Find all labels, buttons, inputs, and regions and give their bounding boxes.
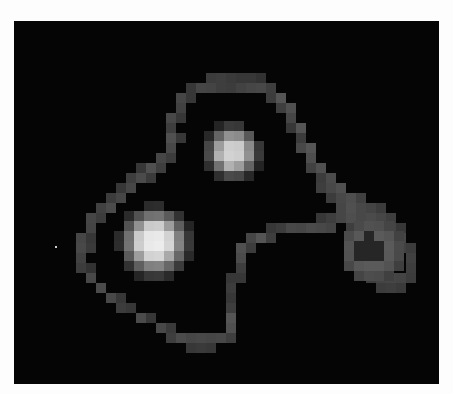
right-ring-lobe-pixel [364,241,374,251]
track-pixel [306,143,316,153]
track-pixel [176,113,186,123]
track-pixel [266,93,276,103]
track-pixel [216,83,226,93]
right-ring-lobe-pixel [354,251,364,261]
lower-left-blob-pixel [154,261,164,271]
track-pixel [226,273,236,283]
upper-blob-pixel [214,151,224,161]
track-pixel [336,193,346,203]
track-pixel [326,173,336,183]
track-pixel [256,83,266,93]
upper-blob-pixel [214,171,224,181]
track-pixel [226,293,236,303]
lower-left-blob-pixel [184,251,194,261]
upper-blob-pixel [234,141,244,151]
track-pixel [76,263,86,273]
lower-left-blob-pixel [154,211,164,221]
track-pixel [266,233,276,243]
right-ring-lobe-pixel [354,231,364,241]
lower-left-blob-pixel [134,221,144,231]
upper-blob-pixel [214,131,224,141]
track-pixel [76,253,86,263]
track-pixel [166,133,176,143]
lower-left-blob-pixel [144,271,154,281]
right-ring-lobe-pixel [364,231,374,241]
lower-left-blob-pixel [184,231,194,241]
lower-left-blob-pixel [124,231,134,241]
track-pixel [276,93,286,103]
track-pixel [246,233,256,243]
track-pixel [326,193,336,203]
track-pixel [226,73,236,83]
upper-blob-pixel [224,131,234,141]
track-pixel [336,213,346,223]
lower-left-blob-pixel [144,241,154,251]
lower-left-blob-pixel [144,261,154,271]
track-pixel [166,323,176,333]
lower-left-blob-pixel [164,271,174,281]
track-pixel [176,103,186,113]
lower-left-blob-pixel [114,231,124,241]
track-pixel [236,273,246,283]
track-pixel [246,83,256,93]
lower-left-blob-pixel [154,231,164,241]
lower-left-blob-pixel [134,251,144,261]
upper-blob-pixel [244,151,254,161]
lower-left-blob-pixel [134,231,144,241]
right-ring-lobe-pixel [394,251,404,261]
lower-left-blob-pixel [124,241,134,251]
track-pixel [146,163,156,173]
track-pixel [356,193,366,203]
track-pixel [406,263,416,273]
lower-left-blob-pixel [164,221,174,231]
upper-blob-pixel [254,141,264,151]
upper-blob-pixel [224,151,234,161]
track-pixel [376,283,386,293]
track-pixel [236,243,246,253]
track-pixel [96,213,106,223]
track-pixel [396,273,406,283]
track-pixel [406,253,416,263]
track-pixel [246,243,256,253]
track-pixel [226,323,236,333]
right-ring-lobe-pixel [384,221,394,231]
lower-left-blob-pixel [174,211,184,221]
track-pixel [156,323,166,333]
upper-blob-pixel [204,141,214,151]
upper-blob-pixel [204,161,214,171]
track-pixel [166,333,176,343]
track-pixel [326,213,336,223]
track-pixel [406,273,416,283]
track-pixel [286,223,296,233]
upper-blob-pixel [244,141,254,151]
upper-blob-pixel [224,161,234,171]
track-pixel [206,73,216,83]
upper-blob-pixel [204,131,214,141]
track-pixel [316,213,326,223]
track-pixel [346,193,356,203]
right-ring-lobe-pixel [364,221,374,231]
track-pixel [176,333,186,343]
upper-blob-pixel [224,171,234,181]
lower-left-blob-pixel [164,241,174,251]
upper-blob-pixel [224,141,234,151]
upper-blob-pixel [234,121,244,131]
upper-blob-pixel [204,151,214,161]
track-pixel [316,163,326,173]
lower-left-blob-pixel [134,271,144,281]
right-ring-lobe-pixel [364,261,374,271]
lower-left-blob-pixel [124,221,134,231]
lower-left-blob-pixel [164,211,174,221]
track-pixel [216,73,226,83]
track-pixel [236,263,246,273]
track-pixel [96,283,106,293]
upper-blob-pixel [254,161,264,171]
track-pixel [176,93,186,103]
track-pixel [296,123,306,133]
right-ring-lobe-pixel [394,231,404,241]
track-pixel [186,93,196,103]
track-pixel [286,113,296,123]
track-pixel [156,163,166,173]
track-pixel [136,163,146,173]
upper-blob-pixel [234,171,244,181]
